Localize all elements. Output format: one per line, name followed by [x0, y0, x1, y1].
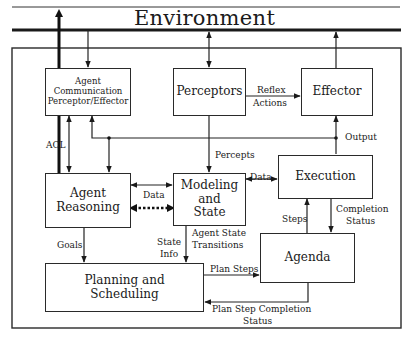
modeling-line1: Modeling: [181, 179, 238, 193]
plan-completion-label-1: Plan Step Completion: [212, 304, 311, 315]
reflex-label-1: Reflex: [257, 85, 286, 96]
execution-label: Execution: [295, 170, 356, 184]
modeling-line2: and: [181, 193, 238, 207]
acl-label: ACL: [46, 140, 65, 151]
agent-communication-box[interactable]: Agent Communication Perceptor/Effector: [45, 68, 131, 116]
modeling-line3: State: [181, 206, 238, 220]
output-label: Output: [345, 132, 377, 143]
perceptors-box[interactable]: Perceptors: [173, 68, 246, 116]
plan-steps-label: Plan Steps: [210, 264, 258, 275]
state-info-label-2: Info: [160, 249, 178, 260]
goals-label: Goals: [57, 240, 82, 251]
completion-label-1: Completion: [336, 204, 389, 215]
planning-line2: Scheduling: [84, 288, 164, 302]
reasoning-line1: Agent: [56, 187, 120, 201]
plan-completion-label-2: Status: [243, 316, 272, 327]
planning-scheduling-box[interactable]: Planning and Scheduling: [45, 263, 204, 312]
perceptors-label: Perceptors: [177, 85, 243, 99]
effector-label: Effector: [313, 85, 362, 99]
agenda-box[interactable]: Agenda: [260, 233, 355, 283]
completion-label-2: Status: [346, 216, 375, 227]
agent-comm-line3: Perceptor/Effector: [48, 97, 129, 107]
agent-state-label-2: Transitions: [192, 240, 243, 251]
effector-box[interactable]: Effector: [301, 68, 373, 116]
data-left-label: Data: [143, 190, 165, 201]
agent-state-label-1: Agent State: [192, 228, 246, 239]
data-right-label: Data: [250, 172, 272, 183]
environment-title: Environment: [0, 6, 409, 30]
percepts-label: Percepts: [215, 150, 255, 161]
steps-label: Steps: [282, 214, 308, 225]
execution-box[interactable]: Execution: [278, 155, 373, 199]
agenda-label: Agenda: [284, 251, 330, 265]
planning-line1: Planning and: [84, 274, 164, 288]
state-info-label-1: State: [157, 237, 181, 248]
agent-reasoning-box[interactable]: Agent Reasoning: [45, 173, 131, 228]
reasoning-line2: Reasoning: [56, 201, 120, 215]
reflex-label-2: Actions: [253, 98, 287, 109]
modeling-state-box[interactable]: Modeling and State: [173, 173, 246, 226]
